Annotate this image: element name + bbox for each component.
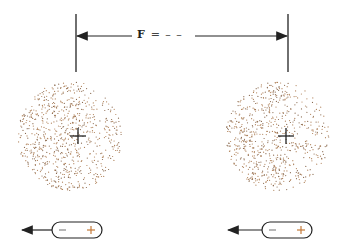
- nucleus-plus-left: [70, 128, 86, 144]
- nucleus-plus-right: [278, 128, 294, 144]
- force-symbol: F: [137, 28, 146, 41]
- force-label: F = – –: [134, 28, 186, 41]
- charge-cloud-left: [18, 82, 122, 191]
- force-expression: = – –: [151, 28, 183, 41]
- charge-cloud-right: [226, 82, 329, 191]
